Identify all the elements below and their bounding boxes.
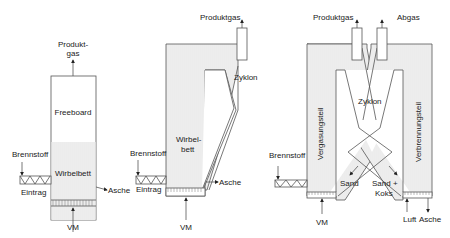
combustion-label: Verbrennungsteil bbox=[414, 102, 423, 162]
bed-label-2b: bett bbox=[181, 145, 195, 154]
fuel-label: Brennstoff bbox=[12, 150, 49, 159]
cyclone-label: Zyklon bbox=[234, 73, 258, 82]
product-gas-label-2: Produktgas bbox=[200, 13, 240, 22]
screw-feeder-3 bbox=[275, 180, 307, 187]
product-gas-pipe bbox=[352, 28, 362, 60]
screw-feeder bbox=[20, 176, 51, 184]
flue-gas-label: Abgas bbox=[397, 13, 420, 22]
distributor-plate-3b bbox=[403, 192, 432, 198]
sand-coke-label-2: Koks bbox=[375, 189, 393, 198]
gasification-label: Vergasungsteil bbox=[316, 107, 325, 160]
screw-feeder-2 bbox=[136, 176, 166, 184]
product-gas-label-2: gas bbox=[67, 49, 80, 58]
sand-coke-label: Sand + bbox=[372, 179, 398, 188]
fuel-label-2: Brennstoff bbox=[130, 149, 167, 158]
bed-label-2: Wirbel- bbox=[176, 135, 202, 144]
vm-label: VM bbox=[67, 223, 79, 232]
sand-label: Sand bbox=[340, 179, 359, 188]
feed-label: Eintrag bbox=[21, 188, 46, 197]
vm-label-2: VM bbox=[180, 223, 192, 232]
bed-region bbox=[51, 142, 95, 220]
fluidized-bed-diagrams: Produkt- gas Freeboard Wirbelbett Brenns… bbox=[0, 0, 450, 238]
circulating-fluidized-bed-diagram: Produktgas Zyklon Wirbel- bett Brennstof… bbox=[130, 13, 258, 232]
vm-label-3: VM bbox=[316, 218, 328, 227]
air-label: Luft bbox=[403, 215, 417, 224]
distributor-plate-3a bbox=[307, 192, 336, 198]
flue-gas-pipe bbox=[377, 28, 387, 60]
fuel-label-3: Brennstoff bbox=[269, 151, 306, 160]
feed-label-2: Eintrag bbox=[136, 185, 161, 194]
cyclone-label-3: Zyklon bbox=[358, 97, 382, 106]
ash-label-2: Asche bbox=[219, 178, 242, 187]
ash-label: Asche bbox=[108, 186, 131, 195]
dual-fluidized-bed-diagram: Produktgas Abgas Zyklon Vergasungsteil V… bbox=[269, 13, 442, 227]
product-gas-label-3: Produktgas bbox=[313, 13, 353, 22]
gas-outlet-pipe bbox=[237, 28, 247, 60]
ash-label-3: Asche bbox=[419, 215, 442, 224]
distributor-plate-2 bbox=[166, 188, 205, 196]
bed-label: Wirbelbett bbox=[55, 169, 92, 178]
ash-arrow bbox=[96, 187, 107, 190]
stationary-fluidized-bed-diagram: Produkt- gas Freeboard Wirbelbett Brenns… bbox=[12, 40, 131, 232]
freeboard-label: Freeboard bbox=[55, 108, 92, 117]
product-gas-label: Produkt- bbox=[58, 40, 89, 49]
